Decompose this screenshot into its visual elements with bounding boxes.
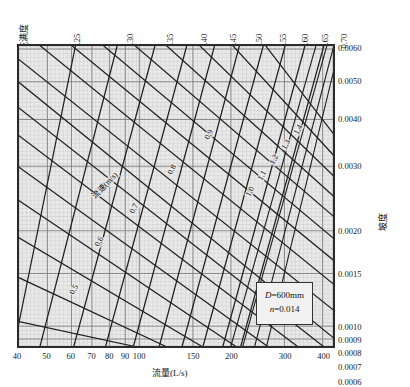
right-tick-label: 0.0030 [338, 162, 361, 171]
right-tick-label: 0.0006 [338, 378, 361, 387]
right-tick-label: 0.0008 [338, 349, 361, 358]
right-tick-label: 0.0060 [338, 44, 361, 53]
right-tick-label: 0.0007 [338, 363, 361, 372]
bottom-tick-label: 150 [183, 352, 203, 361]
bottom-tick-label: 400 [314, 352, 334, 361]
bottom-tick-label: 50 [37, 352, 57, 361]
right-tick-label: 0.0040 [338, 115, 361, 124]
bottom-axis-title-text: 流量(L/s) [152, 368, 188, 378]
right-tick-label: 0.0050 [338, 77, 361, 86]
parameter-info-box: D=600mm n=0.014 [256, 282, 313, 325]
right-tick-label: 0.0015 [338, 270, 361, 279]
right-axis-title: 坡度 [379, 213, 388, 231]
bottom-tick-label: 300 [275, 352, 295, 361]
roughness-value: =0.014 [274, 304, 299, 314]
bottom-tick-label: 60 [61, 352, 81, 361]
bottom-tick-label: 40 [7, 352, 27, 361]
right-axis-title-text: 坡度 [378, 213, 388, 231]
roughness-row: n=0.014 [265, 303, 304, 317]
hydraulic-nomograph-chart: 充满度 (hd) 0.250.300.350.400.450.500.550.6… [0, 0, 410, 387]
diameter-value: =600mm [272, 290, 305, 300]
pipe-diameter-row: D=600mm [265, 289, 304, 303]
bottom-axis-title: 流量(L/s) [152, 369, 188, 378]
bottom-tick-label: 200 [221, 352, 241, 361]
right-tick-label: 0.0009 [338, 336, 361, 345]
bottom-tick-label: 100 [129, 352, 149, 361]
right-tick-label: 0.0020 [338, 227, 361, 236]
plot-area: 流速(m/s) 0.50.60.70.80.91.01.11.21.31.4 D… [17, 44, 335, 348]
right-tick-label: 0.0010 [338, 323, 361, 332]
